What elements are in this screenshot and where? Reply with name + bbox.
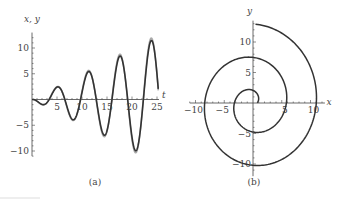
y-axis-label: y bbox=[246, 6, 253, 16]
y-tick-label: 10 bbox=[240, 37, 252, 47]
panel-b: −10−5510−10−5510xy bbox=[184, 6, 332, 176]
x-axis-label: x bbox=[327, 97, 332, 107]
x-tick-label: 10 bbox=[308, 105, 320, 115]
y-tick-label: 10 bbox=[18, 43, 30, 53]
figure: 510152025−10−5510tx, y −10−5510−10−5510x… bbox=[0, 0, 340, 200]
x-axis-label: t bbox=[162, 90, 166, 100]
panel-a-caption: (a) bbox=[89, 177, 101, 187]
x-tick-label: 5 bbox=[54, 102, 60, 112]
y-tick-label: 5 bbox=[245, 68, 251, 78]
spiral-trajectory bbox=[204, 24, 316, 165]
y-axis-label: x, y bbox=[24, 14, 41, 24]
y-tick-label: −10 bbox=[10, 146, 29, 156]
panel-b-caption: (b) bbox=[248, 177, 261, 187]
x-tick-label: 25 bbox=[151, 102, 163, 112]
y-tick-label: −5 bbox=[16, 120, 30, 130]
series-x-line bbox=[32, 40, 158, 150]
x-tick-label: −5 bbox=[216, 105, 230, 115]
y-tick-label: −5 bbox=[238, 129, 252, 139]
x-tick-label: −10 bbox=[184, 105, 203, 115]
panel-a: 510152025−10−5510tx, y bbox=[10, 14, 166, 156]
y-tick-label: 5 bbox=[23, 69, 29, 79]
